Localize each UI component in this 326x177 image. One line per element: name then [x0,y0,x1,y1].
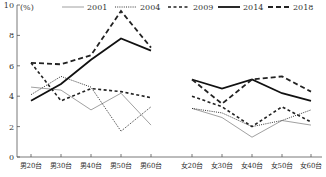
x-tick-label: 男20台 [20,161,43,170]
series-line-2014 [31,38,151,100]
legend-item-2018: 2018 [293,3,313,12]
x-ticks: 男20台男30台男40台男50台男60台女20台女30台女40台女50台女60台 [20,154,323,170]
legend-item-2001: 2001 [87,3,107,12]
legend: 20012004200920142018 [62,3,313,12]
y-tick-label: 4 [9,92,14,101]
x-tick-label: 女40台 [241,161,264,170]
x-tick-label: 男50台 [110,161,133,170]
y-tick-label: 2 [9,123,14,132]
series-line-2018 [31,11,151,64]
plot-lines [31,11,311,137]
x-tick-label: 男40台 [80,161,103,170]
series-line-2018 [192,76,311,103]
legend-item-2009: 2009 [193,3,213,12]
legend-item-2004: 2004 [140,3,160,12]
x-tick-label: 男30台 [50,161,73,170]
y-unit-label: (%) [20,3,34,12]
legend-item-2014: 2014 [243,3,263,12]
series-line-2004 [192,108,311,126]
x-tick-label: 男60台 [140,161,163,170]
x-tick-label: 女50台 [271,161,294,170]
y-ticks: 0246810 [4,1,20,162]
y-tick-label: 8 [9,31,14,40]
y-tick-label: 6 [9,62,14,71]
series-line-2001 [31,87,151,125]
y-tick-label: 10 [4,1,14,10]
x-tick-label: 女60台 [300,161,323,170]
x-tick-label: 女30台 [211,161,234,170]
y-tick-label: 0 [9,153,14,162]
line-chart: 0246810 男20台男30台男40台男50台男60台女20台女30台女40台… [0,0,326,177]
x-tick-label: 女20台 [181,161,204,170]
series-line-2009 [31,63,151,101]
